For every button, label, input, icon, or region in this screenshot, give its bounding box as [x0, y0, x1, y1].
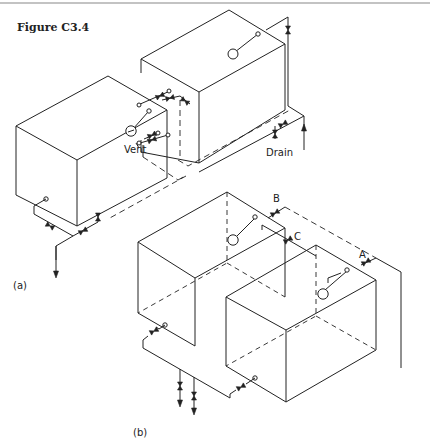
lower-dashed-pipe: [108, 176, 186, 219]
tank-b-left: [138, 192, 285, 346]
figure-canvas: Figure C3.4: [0, 0, 430, 444]
outlet-manifold-b: [143, 325, 255, 415]
pipe-c: [262, 225, 316, 256]
valve-b-label: B: [273, 193, 280, 204]
vent-piping: [136, 89, 190, 180]
valve-c-label: C: [294, 231, 301, 242]
part-b-label: (b): [133, 427, 147, 438]
tank-b-right: [226, 245, 376, 402]
part-a-diagram: Drain Vent: [16, 10, 307, 278]
part-a-label: (a): [13, 280, 27, 291]
outlet-piping: [34, 199, 101, 278]
pipe-b-a: [268, 207, 401, 368]
vent-label: Vent: [124, 144, 147, 155]
figure-title: Figure C3.4: [17, 21, 90, 34]
drain-label: Drain: [266, 147, 293, 158]
valve-a-label: A: [359, 249, 366, 260]
part-b-diagram: B C A: [138, 192, 401, 415]
tank-a-right: [141, 10, 285, 163]
